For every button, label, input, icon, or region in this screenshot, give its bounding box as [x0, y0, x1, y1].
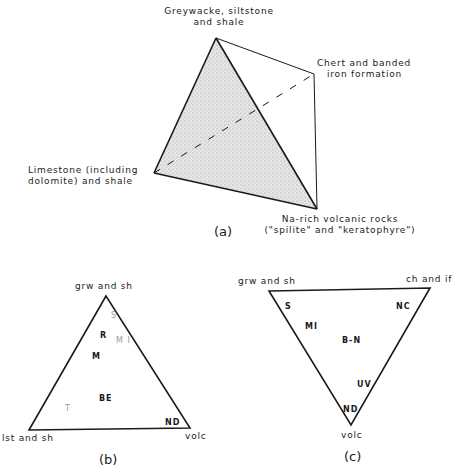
label-line: iron formation — [317, 69, 411, 80]
label-line: dolomite) and shale — [28, 176, 138, 187]
label-line: and shale — [160, 17, 278, 28]
point-UV: UV — [357, 380, 372, 389]
point-T: T — [65, 404, 71, 413]
label-line: Chert and banded — [317, 58, 411, 69]
label-line: Greywacke, siltstone — [160, 6, 278, 17]
label-line: Na-rich volcanic rocks — [262, 214, 418, 225]
vertex-label-chert: Chert and banded iron formation — [317, 58, 411, 80]
vertex-label-limestone: Limestone (including dolomite) and shale — [28, 165, 138, 187]
vertex-label-grw-sh: grw and sh — [75, 281, 133, 292]
point-S: S — [111, 311, 117, 320]
point-BN: B-N — [342, 336, 361, 345]
point-MI: M I — [116, 336, 131, 345]
caption-c: (c) — [344, 449, 361, 464]
label-line: Limestone (including — [28, 165, 138, 176]
point-NC: NC — [396, 302, 411, 311]
shaded-face — [154, 38, 317, 209]
point-MI: MI — [305, 322, 318, 331]
caption-a: (a) — [214, 224, 232, 239]
vertex-label-volc: volc — [341, 430, 362, 441]
point-S: S — [285, 302, 292, 311]
caption-b: (b) — [99, 452, 117, 467]
point-R: R — [100, 331, 107, 340]
vertex-label-lst-sh: lst and sh — [2, 433, 54, 444]
point-ND: ND — [165, 418, 180, 427]
vertex-label-ch-if: ch and if — [406, 274, 452, 285]
point-ND: ND — [343, 405, 358, 414]
point-BE: BE — [99, 394, 113, 403]
vertex-label-grw-sh: grw and sh — [238, 276, 296, 287]
point-M: M — [92, 352, 101, 361]
vertex-label-volc: volc — [185, 431, 206, 442]
vertex-label-greywacke: Greywacke, siltstone and shale — [160, 6, 278, 28]
label-line: ("spilite" and "keratophyre") — [262, 225, 418, 236]
vertex-label-volcanic: Na-rich volcanic rocks ("spilite" and "k… — [262, 214, 418, 236]
